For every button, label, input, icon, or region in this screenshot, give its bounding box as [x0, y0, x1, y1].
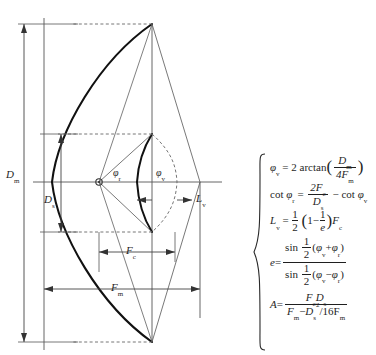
equation-l-v: Lv = 12 (1−1e)Fc	[270, 209, 342, 235]
label-phi-v: φv	[156, 167, 165, 178]
label-fc: Fc	[126, 244, 136, 256]
focus-point-dot	[98, 181, 100, 183]
equation-phi-v: φv = 2 arctan(Dm4Fm)	[270, 155, 363, 182]
equation-a: A=FcDsFm−Ds2/16Fm	[270, 292, 349, 319]
label-lv: Lv	[196, 192, 206, 204]
label-dm: Dm	[6, 168, 19, 180]
label-ds: Ds	[44, 193, 55, 205]
equation-panel: φv = 2 arctan(Dm4Fm) cot φr = 2FcDs − co…	[252, 152, 376, 352]
equation-list: φv = 2 arctan(Dm4Fm) cot φr = 2FcDs − co…	[266, 152, 376, 352]
label-fm: Fm	[111, 281, 123, 293]
equation-e: e=sin 12(φv+φr)sin 12(φv−φr)	[270, 237, 348, 289]
equation-cot-phi-r: cot φr = 2FcDs − cot φv	[270, 182, 367, 209]
label-phi-r: φr	[113, 167, 121, 178]
